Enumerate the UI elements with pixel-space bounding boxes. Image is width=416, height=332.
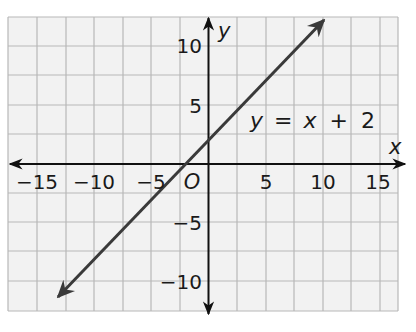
y-tick-label: 10 [177, 34, 202, 58]
equation-plus: + [330, 108, 348, 133]
coordinate-graph: −15 −10 −5 5 10 15 O 10 5 −5 −10 y x y =… [0, 0, 416, 332]
x-axis-label: x [388, 135, 402, 159]
x-tick-label: −15 [16, 170, 58, 194]
equation-constant: 2 [361, 108, 375, 133]
x-tick-label: −5 [136, 170, 165, 194]
y-tick-label: 5 [189, 94, 202, 118]
x-tick-label: 5 [260, 170, 273, 194]
y-tick-label: −10 [160, 270, 202, 294]
x-tick-label: −10 [73, 170, 115, 194]
x-tick-label: 15 [365, 170, 390, 194]
x-tick-label: 10 [310, 170, 335, 194]
origin-label: O [184, 170, 201, 194]
equation-equals: = [274, 108, 292, 133]
y-tick-label: −5 [173, 211, 202, 235]
y-axis-label: y [217, 19, 231, 43]
equation-x: x [302, 108, 317, 133]
equation-y: y [249, 108, 264, 133]
